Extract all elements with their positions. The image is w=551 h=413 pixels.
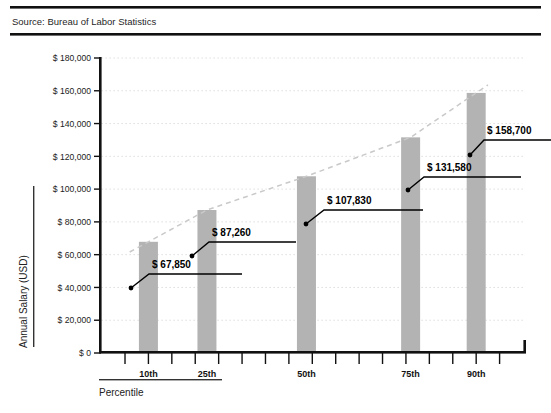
bar bbox=[297, 176, 316, 353]
y-axis: $ 0$ 20,000$ 40,000$ 60,000$ 80,000$ 100… bbox=[53, 53, 102, 358]
salary-percentile-chart: Source: Bureau of Labor Statistics $ 67,… bbox=[0, 0, 551, 413]
bar bbox=[401, 137, 420, 353]
y-tick-label: $ 0 bbox=[79, 348, 91, 358]
value-callout-label: $ 67,850 bbox=[152, 259, 191, 270]
value-callouts: $ 67,850$ 87,260$ 107,830$ 131,580$ 158,… bbox=[129, 125, 551, 290]
y-tick-label: $ 60,000 bbox=[58, 250, 92, 260]
x-tick-label: 75th bbox=[401, 369, 420, 379]
y-tick-label: $ 100,000 bbox=[53, 184, 91, 194]
value-callout-label: $ 131,580 bbox=[427, 162, 472, 173]
x-axis-caption-group: Percentile bbox=[99, 379, 222, 398]
x-tick-label: 10th bbox=[139, 369, 158, 379]
header-rule-bottom bbox=[10, 33, 541, 36]
y-tick-label: $ 140,000 bbox=[53, 119, 91, 129]
y-tick-label: $ 20,000 bbox=[58, 315, 92, 325]
value-callout-label: $ 107,830 bbox=[327, 195, 372, 206]
y-tick-label: $ 80,000 bbox=[58, 217, 92, 227]
x-tick-label: 50th bbox=[297, 369, 316, 379]
header-rule-top bbox=[10, 6, 541, 9]
source-note: Source: Bureau of Labor Statistics bbox=[12, 16, 156, 27]
y-axis-title: Annual Salary (USD) bbox=[18, 255, 29, 348]
x-tick-label: 25th bbox=[198, 369, 217, 379]
y-axis-title-group: Annual Salary (USD) bbox=[18, 186, 34, 348]
value-callout-label: $ 158,700 bbox=[487, 125, 532, 136]
x-tick-label: 90th bbox=[467, 369, 486, 379]
y-tick-label: $ 40,000 bbox=[58, 283, 92, 293]
y-tick-label: $ 120,000 bbox=[53, 152, 91, 162]
x-axis-caption: Percentile bbox=[99, 387, 144, 398]
bar bbox=[467, 93, 486, 353]
value-callout-label: $ 87,260 bbox=[212, 227, 251, 238]
plot-bars bbox=[139, 93, 486, 353]
y-tick-label: $ 160,000 bbox=[53, 86, 91, 96]
y-tick-label: $ 180,000 bbox=[53, 53, 91, 63]
